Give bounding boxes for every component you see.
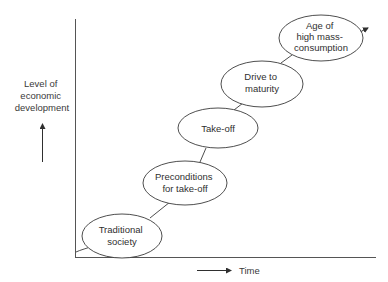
- x-axis-label: Time: [239, 265, 260, 276]
- stage-age-of-high-mass-consumption: Age of high mass- consumption: [279, 15, 363, 61]
- y-axis-label: Level of economic development: [15, 78, 70, 113]
- connector-2-3: [200, 148, 206, 162]
- stage-preconditions-for-take-off: Preconditions for take-off: [143, 161, 227, 205]
- svg-text:Drive to maturity: Drive to maturity: [244, 71, 279, 94]
- svg-text:Take-off: Take-off: [201, 123, 235, 134]
- stage-drive-to-maturity: Drive to maturity: [221, 61, 303, 107]
- svg-text:Preconditions for take-o: Preconditions for take-off: [155, 171, 215, 194]
- stages-of-growth-diagram: Level of economic development Time Tradi…: [0, 0, 388, 282]
- connector-4-5: [281, 55, 292, 63]
- connector-1-2: [150, 202, 170, 218]
- stage-take-off: Take-off: [178, 108, 258, 148]
- stage-traditional-society: Traditional society: [82, 214, 162, 258]
